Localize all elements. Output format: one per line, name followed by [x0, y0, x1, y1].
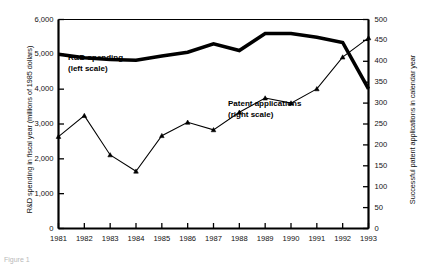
right-tick-label: 150: [375, 161, 405, 170]
axes-layer: [59, 20, 369, 229]
right-tick-label: 400: [375, 56, 405, 65]
left-tick-label: 5,000: [20, 49, 54, 58]
left-tick-label: 6,000: [20, 15, 54, 24]
x-tick-label: 1993: [354, 234, 384, 243]
left-tick-label: 2,000: [20, 154, 54, 163]
left-tick-label: 0: [20, 224, 54, 233]
plot-area: [0, 0, 421, 271]
data-point-marker: [82, 113, 87, 117]
right-tick-label: 450: [375, 35, 405, 44]
left-tick-label: 4,000: [20, 84, 54, 93]
right-tick-label: 250: [375, 119, 405, 128]
series-line-rd-spending: [59, 33, 369, 88]
right-tick-label: 50: [375, 203, 405, 212]
data-point-marker: [366, 36, 371, 40]
data-point-marker: [237, 110, 242, 114]
ticks-layer: [59, 20, 369, 229]
right-tick-label: 0: [375, 224, 405, 233]
data-point-marker: [160, 133, 165, 137]
right-tick-label: 100: [375, 182, 405, 191]
data-point-marker: [185, 120, 190, 124]
right-tick-label: 350: [375, 77, 405, 86]
right-tick-label: 300: [375, 98, 405, 107]
series-layer: [56, 33, 371, 173]
right-tick-label: 200: [375, 140, 405, 149]
figure-container: R&D spending in fiscal year (millions of…: [0, 0, 421, 271]
left-tick-label: 1,000: [20, 189, 54, 198]
right-tick-label: 500: [375, 15, 405, 24]
left-tick-label: 3,000: [20, 119, 54, 128]
